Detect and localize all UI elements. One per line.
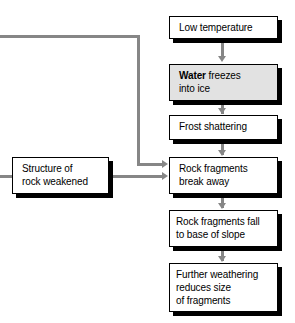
node-low-temperature: Low temperature — [169, 16, 278, 39]
node-rock-fragments-break-away-line-1: Rock fragments — [179, 162, 277, 175]
node-water-freezes-line-2: into ice — [179, 82, 277, 95]
node-water-freezes-line-1: Water freezes — [179, 69, 277, 82]
arrowhead-rock-fragments-break-away — [218, 150, 226, 156]
node-structure-weakened-line-2: rock weakened — [22, 175, 108, 188]
node-rock-fragments-break-away: Rock fragments break away — [169, 157, 278, 194]
node-water-freezes: Water freezes into ice — [169, 64, 278, 101]
feedback-vertical-segment — [137, 35, 140, 166]
node-low-temperature-line-1: Low temperature — [179, 21, 277, 34]
node-rock-fragments-fall: Rock fragments fall to base of slope — [169, 210, 278, 247]
feedback-horizontal-bottom-segment — [137, 163, 163, 166]
node-further-weathering-line-1: Further weathering — [176, 268, 277, 281]
structure-to-rockfragments-arrowhead — [162, 172, 168, 180]
node-rock-fragments-fall-line-1: Rock fragments fall — [176, 215, 277, 228]
water-rest-line: freezes — [206, 70, 241, 81]
node-frost-shattering: Frost shattering — [169, 115, 278, 140]
feedback-horizontal-top-segment — [0, 35, 140, 38]
structure-to-rockfragments-line — [112, 175, 163, 178]
water-bold-word: Water — [179, 70, 206, 81]
node-frost-shattering-line-1: Frost shattering — [179, 120, 277, 133]
node-structure-weakened-line-1: Structure of — [22, 162, 108, 175]
node-further-weathering-line-2: reduces size — [176, 281, 277, 294]
feedback-arrowhead — [162, 160, 168, 168]
node-further-weathering-line-3: of fragments — [176, 294, 277, 307]
node-structure-weakened: Structure of rock weakened — [12, 157, 109, 194]
node-further-weathering: Further weathering reduces size of fragm… — [169, 263, 278, 312]
arrowhead-rock-fragments-fall — [218, 203, 226, 209]
node-rock-fragments-fall-line-2: to base of slope — [176, 228, 277, 241]
node-rock-fragments-break-away-line-2: break away — [179, 175, 277, 188]
arrowhead-water-freezes — [218, 56, 226, 62]
arrowhead-frost-shattering — [218, 108, 226, 114]
arrowhead-further-weathering — [218, 256, 226, 262]
flowchart-diagram: Low temperature Water freezes into ice F… — [0, 0, 295, 323]
